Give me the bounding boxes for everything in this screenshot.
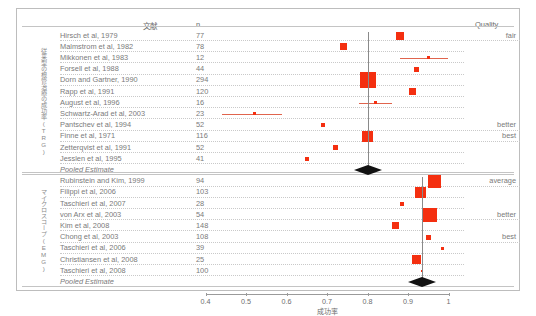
study-label: Finne et al, 1971 bbox=[60, 131, 115, 140]
pooled-estimate-label: Pooled Estimate bbox=[60, 277, 114, 286]
study-label: Christiansen et al, 2008 bbox=[60, 255, 138, 264]
study-label: Hirsch et al, 1979 bbox=[60, 31, 118, 40]
study-label: Zetterqvist et al, 1991 bbox=[60, 143, 131, 152]
x-axis-tick bbox=[368, 293, 369, 296]
quality-label: best bbox=[460, 232, 516, 241]
x-axis-tick bbox=[449, 293, 450, 296]
study-n: 25 bbox=[196, 255, 204, 264]
study-n: 54 bbox=[196, 210, 204, 219]
study-n: 44 bbox=[196, 64, 204, 73]
study-label: Rapp et al, 1991 bbox=[60, 87, 114, 96]
study-n: 28 bbox=[196, 199, 204, 208]
x-axis-tick bbox=[408, 293, 409, 296]
x-axis-tick bbox=[327, 293, 328, 296]
study-label: Taschieri et al, 2006 bbox=[60, 243, 126, 252]
x-axis-tick-label: 0.7 bbox=[314, 297, 340, 306]
quality-label: best bbox=[460, 131, 516, 140]
group-axis-label-trg: 従来型の根管治療の成功率(TRG) bbox=[40, 29, 46, 175]
study-n: 103 bbox=[196, 187, 208, 196]
x-axis-tick bbox=[246, 293, 247, 296]
group-separator bbox=[22, 26, 514, 27]
study-label: von Arx et al, 2003 bbox=[60, 210, 121, 219]
x-axis-tick-label: 0.6 bbox=[274, 297, 300, 306]
quality-label: average bbox=[460, 176, 516, 185]
study-n: 52 bbox=[196, 143, 204, 152]
x-axis-tick bbox=[287, 293, 288, 296]
column-header-n: n bbox=[196, 20, 200, 29]
study-label: Kim et al, 2008 bbox=[60, 221, 109, 230]
study-n: 77 bbox=[196, 31, 204, 40]
study-n: 100 bbox=[196, 266, 208, 275]
study-label: Malmstrom et al, 1982 bbox=[60, 42, 133, 51]
study-n: 108 bbox=[196, 232, 208, 241]
study-n: 16 bbox=[196, 98, 204, 107]
quality-label: fair bbox=[460, 31, 516, 40]
study-label: Taschieri et al, 2007 bbox=[60, 199, 126, 208]
study-label: Rubinstein and Kim, 1999 bbox=[60, 176, 145, 185]
study-n: 41 bbox=[196, 154, 204, 163]
group-separator bbox=[22, 174, 514, 175]
group-separator bbox=[22, 172, 514, 173]
study-label: Taschieri et al, 2008 bbox=[60, 266, 126, 275]
study-n: 294 bbox=[196, 75, 208, 84]
study-label: Chong et al, 2003 bbox=[60, 232, 118, 241]
x-axis-tick-label: 0.8 bbox=[355, 297, 381, 306]
study-n: 148 bbox=[196, 221, 208, 230]
x-axis-tick-label: 0.5 bbox=[233, 297, 259, 306]
study-label: Pantschev et al, 1994 bbox=[60, 120, 131, 129]
quality-label: better bbox=[460, 210, 516, 219]
x-axis-tick-label: 0.4 bbox=[193, 297, 219, 306]
x-axis-tick-label: 1 bbox=[436, 297, 462, 306]
quality-label: better bbox=[460, 120, 516, 129]
x-axis-title: 成功率 bbox=[297, 306, 357, 316]
study-label: Mikkonen et al, 1983 bbox=[60, 53, 128, 62]
study-label: Forsell et al, 1988 bbox=[60, 64, 119, 73]
study-n: 39 bbox=[196, 243, 204, 252]
study-n: 78 bbox=[196, 42, 204, 51]
column-header-quality: Quality bbox=[475, 20, 498, 29]
study-n: 120 bbox=[196, 87, 208, 96]
study-label: Jesslen et al, 1995 bbox=[60, 154, 122, 163]
study-n: 116 bbox=[196, 131, 208, 140]
study-label: Filippi et al, 2006 bbox=[60, 187, 116, 196]
study-label: Schwartz-Arad et al, 2003 bbox=[60, 109, 145, 118]
study-label: Dorn and Gartner, 1990 bbox=[60, 75, 138, 84]
study-label: August et al, 1996 bbox=[60, 98, 120, 107]
x-axis-tick-label: 0.9 bbox=[395, 297, 421, 306]
study-n: 94 bbox=[196, 176, 204, 185]
study-n: 23 bbox=[196, 109, 204, 118]
group-separator bbox=[22, 286, 514, 287]
study-n: 52 bbox=[196, 120, 204, 129]
group-axis-label-emg: マイクロスコープ(EMG) bbox=[40, 174, 46, 286]
x-axis-tick bbox=[206, 293, 207, 296]
study-n: 12 bbox=[196, 53, 204, 62]
